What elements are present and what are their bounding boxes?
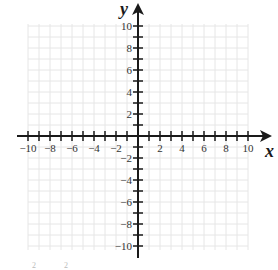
y-tick-label: 6 — [127, 64, 133, 76]
y-tick-label: −4 — [120, 174, 132, 186]
x-tick-labels: −10−8−6−4−2246810 — [19, 142, 254, 154]
x-tick-label: 8 — [223, 142, 229, 154]
y-tick-label: 4 — [127, 86, 133, 98]
y-tick-label: 8 — [127, 42, 133, 54]
faint-mark: 2 — [64, 261, 68, 270]
x-tick-label: 10 — [243, 142, 255, 154]
y-tick-label: −10 — [115, 240, 133, 252]
x-tick-label: −10 — [19, 142, 37, 154]
x-tick-label: 2 — [157, 142, 163, 154]
x-tick-label: −8 — [44, 142, 56, 154]
y-axis-title: y — [118, 0, 129, 19]
y-tick-label: 2 — [127, 108, 133, 120]
x-tick-label: 4 — [179, 142, 185, 154]
x-axis-title: x — [264, 141, 274, 161]
faint-mark: 2 — [32, 261, 36, 270]
x-tick-label: −4 — [88, 142, 100, 154]
y-tick-label: −2 — [120, 152, 132, 164]
y-tick-label: −8 — [120, 218, 132, 230]
axes — [17, 3, 272, 258]
y-tick-label: 10 — [121, 20, 133, 32]
x-tick-label: −6 — [66, 142, 78, 154]
x-tick-label: 6 — [201, 142, 207, 154]
coordinate-plane: −10−8−6−4−2246810 108642−2−4−6−8−10 y x … — [0, 0, 278, 270]
y-tick-label: −6 — [120, 196, 132, 208]
